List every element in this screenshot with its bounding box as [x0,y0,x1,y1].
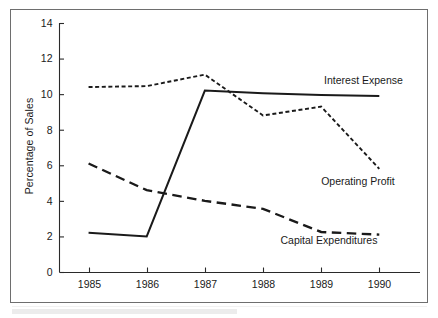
data-series-group [89,75,380,237]
y-tick-label: 14 [41,17,53,29]
series-labels-group: Interest ExpenseOperating ProfitCapital … [281,74,404,246]
y-tick-label: 2 [47,230,53,242]
line-chart-plot: 02468101214 198519861987198819891990 Int… [0,0,438,318]
x-tick-label: 1988 [252,278,276,290]
series-line-operating-profit [89,75,380,169]
x-tick-label: 1986 [136,278,160,290]
y-tick-label: 10 [41,88,53,100]
x-tick-label: 1987 [194,278,218,290]
y-tick-label: 6 [47,159,53,171]
x-tick-label: 1990 [368,278,392,290]
series-label-operating-profit: Operating Profit [321,175,395,187]
y-tick-label: 8 [47,124,53,136]
x-tick-label: 1989 [310,278,334,290]
series-label-capital-expenditures: Capital Expenditures [281,234,378,246]
y-tick-label: 4 [47,195,53,207]
y-axis-ticks: 02468101214 [41,17,64,278]
x-axis-ticks: 198519861987198819891990 [78,268,392,291]
series-line-interest-expense [89,91,380,237]
series-label-interest-expense: Interest Expense [324,74,403,86]
x-tick-label: 1985 [78,278,102,290]
y-tick-label: 12 [41,52,53,64]
y-tick-label: 0 [47,266,53,278]
chart-figure: Percentage of Sales 02468101214 19851986… [0,0,438,318]
